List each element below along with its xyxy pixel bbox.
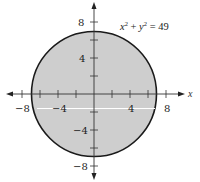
x-tick-label-neg8: −8 bbox=[15, 103, 30, 114]
x-tick-label-8: 8 bbox=[164, 103, 170, 114]
equation-label: x2 + y2 = 49 bbox=[119, 20, 169, 32]
x-axis-right-arrow-icon bbox=[178, 92, 185, 97]
x-axis-left-arrow-icon bbox=[6, 92, 13, 97]
circle-graph: −8 −4 4 8 8 4 −4 −8 x x2 + y2 = 49 bbox=[0, 0, 200, 182]
x-tick-label-neg4: −4 bbox=[52, 103, 67, 114]
y-tick-label-neg8: −8 bbox=[73, 161, 88, 172]
x-axis-label: x bbox=[187, 88, 193, 99]
y-axis-down-arrow-icon bbox=[92, 173, 97, 180]
y-tick-label-4: 4 bbox=[79, 53, 85, 64]
y-axis-up-arrow-icon bbox=[92, 2, 97, 9]
y-tick-label-neg4: −4 bbox=[73, 125, 88, 136]
x-tick-label-4: 4 bbox=[128, 103, 134, 114]
y-tick-label-8: 8 bbox=[78, 17, 84, 28]
